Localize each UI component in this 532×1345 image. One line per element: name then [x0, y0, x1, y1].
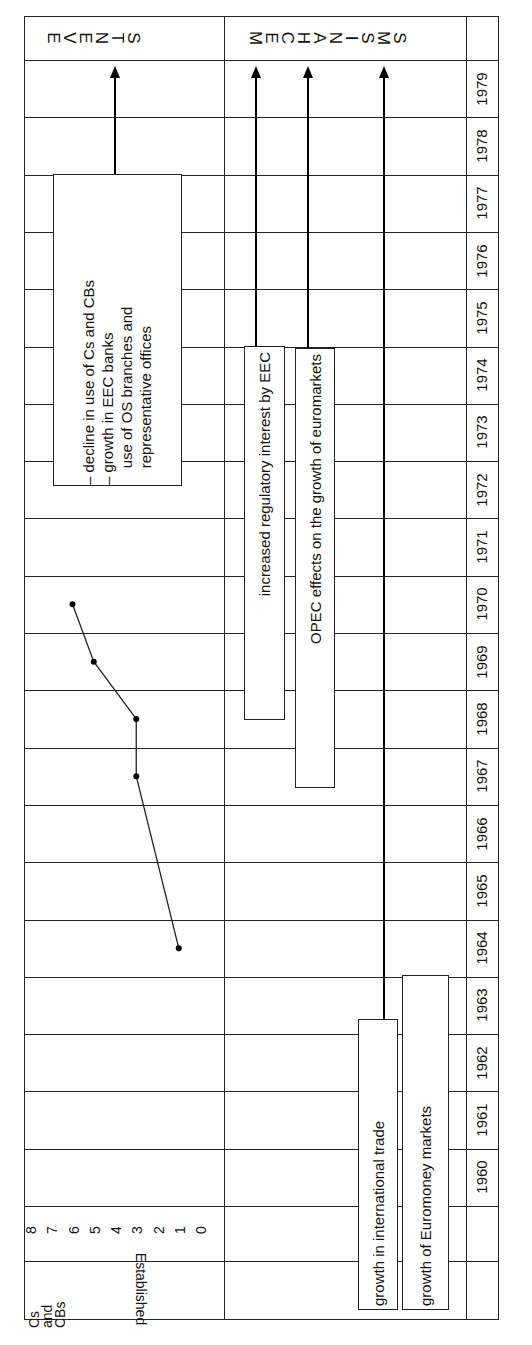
- eec-arrow-shaft: [255, 76, 257, 346]
- mechanism-label-eec: increased regulatory interest by EEC: [255, 352, 275, 716]
- mechanism-box-eec: increased regulatory interest by EEC: [244, 346, 285, 720]
- mechanism-box-euromoney: growth of Euromoney markets: [402, 975, 449, 1310]
- data-point: [91, 659, 97, 665]
- data-point: [70, 601, 76, 607]
- mechanism-label-trade: growth in international trade: [369, 1024, 389, 1306]
- opec-arrow-shaft: [307, 76, 309, 348]
- events-box: – decline in use of Cs and CBs – growth …: [53, 174, 182, 486]
- data-point: [176, 945, 182, 951]
- mechanism-label-opec: OPEC effects on the growth of euromarket…: [306, 354, 326, 784]
- mechanism-box-opec: OPEC effects on the growth of euromarket…: [295, 348, 335, 788]
- mechanism-box-trade: growth in international trade: [358, 1019, 398, 1310]
- mechanism-label-euromoney: growth of Euromoney markets: [416, 980, 436, 1306]
- events-box-text: – decline in use of Cs and CBs – growth …: [79, 175, 159, 485]
- data-point: [133, 773, 139, 779]
- eec-arrow-head: [251, 66, 261, 78]
- trade-arrow-head: [379, 66, 389, 78]
- established-series-line: [73, 604, 179, 948]
- trade-arrow-shaft: [383, 76, 385, 1019]
- events-arrow-shaft: [114, 76, 116, 174]
- events-arrow-head: [110, 66, 120, 78]
- data-point: [133, 716, 139, 722]
- opec-arrow-head: [303, 66, 313, 78]
